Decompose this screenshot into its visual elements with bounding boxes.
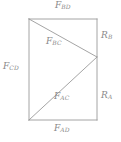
label-reaction-a: RA [101,91,112,100]
lower-diagonal [29,57,97,120]
label-force-bd-subscript: BD [61,3,70,10]
label-reaction-a-base: R [101,90,108,100]
upper-diagonal [29,19,97,57]
label-force-cd-subscript: CD [9,64,18,71]
geometry-figure: FBD FCD FBC FAC FAD RB RA [0,0,121,142]
label-force-ac-subscript: AC [60,94,69,101]
label-force-bc-subscript: BC [52,39,61,46]
label-force-bc: FBC [46,37,61,46]
label-force-bd: FBD [55,1,71,10]
label-reaction-b-subscript: B [108,33,112,40]
label-reaction-b: RB [101,31,112,40]
label-force-ad-subscript: AD [60,126,69,133]
label-force-ad: FAD [54,124,70,133]
label-reaction-a-subscript: A [108,93,112,100]
label-force-cd: FCD [3,62,19,71]
label-force-ac: FAC [54,92,69,101]
label-reaction-b-base: R [101,30,108,40]
